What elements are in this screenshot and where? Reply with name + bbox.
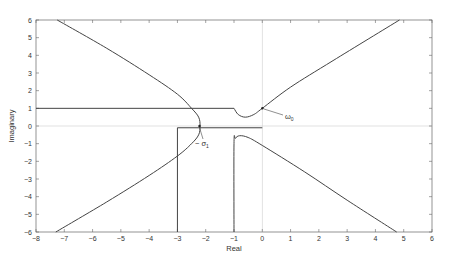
x-tick-label: −3 <box>173 235 181 242</box>
y-tick-label: 4 <box>28 52 32 59</box>
y-tick-label: −1 <box>24 140 32 147</box>
y-tick-label: 5 <box>28 34 32 41</box>
sigma1-marker <box>198 125 200 127</box>
omega0-marker <box>261 107 263 109</box>
root-locus-chart: −8−7−6−5−4−3−2−101234566543210−1−2−3−4−5… <box>0 0 449 260</box>
x-tick-label: −6 <box>89 235 97 242</box>
x-tick-label: 0 <box>260 235 264 242</box>
y-tick-label: −5 <box>24 211 32 218</box>
x-tick-label: 1 <box>289 235 293 242</box>
y-tick-label: 0 <box>28 123 32 130</box>
y-tick-label: 1 <box>28 105 32 112</box>
x-tick-label: −4 <box>145 235 153 242</box>
x-tick-label: −8 <box>32 235 40 242</box>
x-tick-label: −1 <box>230 235 238 242</box>
y-tick-label: −3 <box>24 176 32 183</box>
y-tick-label: 3 <box>28 70 32 77</box>
x-tick-label: −7 <box>60 235 68 242</box>
x-tick-label: −5 <box>117 235 125 242</box>
x-axis-label: Real <box>226 244 242 253</box>
y-tick-label: −2 <box>24 158 32 165</box>
y-axis-label: Imaginary <box>7 109 16 142</box>
y-tick-label: 6 <box>28 17 32 24</box>
y-tick-label: 2 <box>28 87 32 94</box>
x-tick-label: 5 <box>402 235 406 242</box>
y-tick-label: −6 <box>24 229 32 236</box>
x-tick-label: 3 <box>345 235 349 242</box>
x-tick-label: 4 <box>373 235 377 242</box>
x-tick-label: 6 <box>430 235 434 242</box>
y-tick-label: −4 <box>24 193 32 200</box>
x-tick-label: −2 <box>202 235 210 242</box>
x-tick-label: 2 <box>317 235 321 242</box>
